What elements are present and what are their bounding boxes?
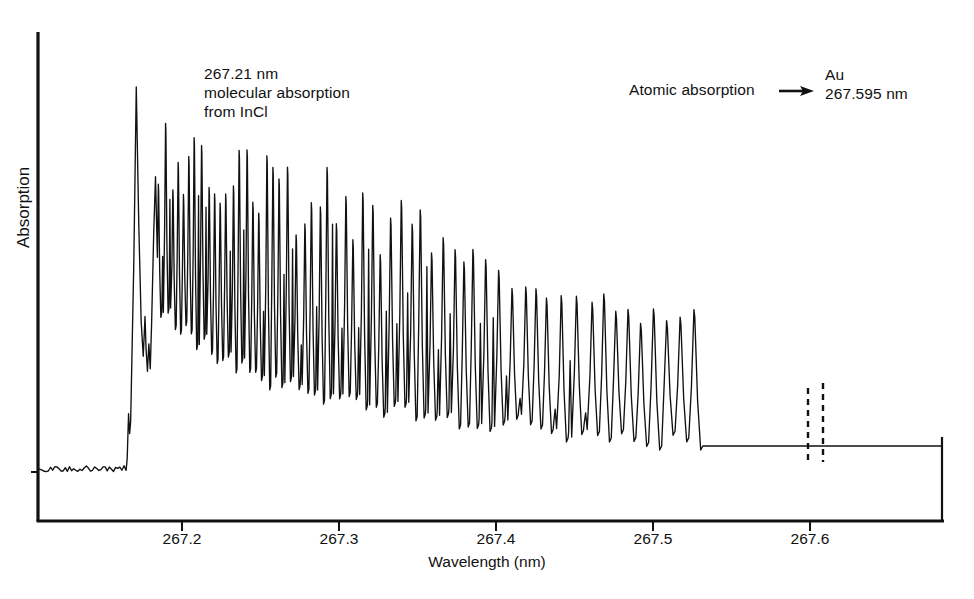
x-axis-title: Wavelength (nm) — [428, 553, 545, 571]
au-line-dashed-guides — [808, 383, 823, 462]
y-axis-title: Absorption — [14, 167, 34, 248]
spectrum-figure: 267.21 nm molecular absorption from InCl… — [0, 0, 974, 599]
x-tick-label-267.3: 267.3 — [320, 530, 359, 548]
right-arrow-icon — [779, 86, 814, 96]
x-tick-label-267.2: 267.2 — [163, 530, 202, 548]
au-line-annotation: Au 267.595 nm — [825, 65, 908, 103]
spectrum-trace — [38, 87, 942, 519]
atomic-absorption-annotation: Atomic absorption — [629, 80, 755, 99]
x-tick-label-267.4: 267.4 — [477, 530, 516, 548]
incl-annotation: 267.21 nm molecular absorption from InCl — [204, 64, 350, 121]
x-tick-label-267.5: 267.5 — [634, 530, 673, 548]
x-tick-label-267.6: 267.6 — [791, 530, 830, 548]
